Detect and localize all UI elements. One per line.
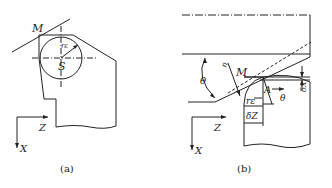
label-radius-a: rε [61, 42, 68, 50]
label-x-b: X [194, 145, 203, 156]
label-delta-x: δX [299, 81, 308, 92]
normal-arrowhead [236, 90, 240, 96]
figure-a [12, 19, 116, 148]
label-theta: θ [200, 75, 206, 86]
label-radius-b: rε [246, 96, 255, 106]
label-normal: n [219, 61, 229, 69]
label-x-a: X [19, 143, 28, 154]
label-a: A [263, 84, 271, 95]
label-s: S [58, 60, 66, 73]
diagram-canvas: M S rε Z X (a) [0, 0, 332, 188]
caption-a: (a) [60, 163, 74, 174]
tool-outline-right [39, 35, 116, 126]
x-axis-arrowhead [15, 143, 19, 148]
tool-outline-left [39, 35, 56, 127]
z-axis-arrowhead [221, 115, 226, 119]
x-axis-arrowhead [190, 145, 194, 150]
caption-b: (b) [237, 163, 251, 174]
z-axis-arrowhead [43, 115, 48, 119]
label-z-a: Z [38, 122, 47, 133]
delta-x-arrow-top [300, 72, 304, 77]
theta2-arrowhead [279, 87, 284, 91]
label-m-b: M [235, 66, 248, 79]
label-z-b: Z [213, 122, 222, 133]
tool-break-line [56, 126, 116, 129]
label-delta-z: δZ [246, 111, 258, 121]
label-theta2: θ [280, 93, 286, 103]
tool-break-line [244, 144, 310, 148]
label-m-a: M [31, 22, 44, 35]
